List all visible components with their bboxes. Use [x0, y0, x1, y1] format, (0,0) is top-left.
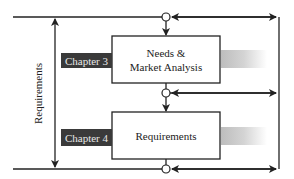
side-requirements-label: Requirements [32, 59, 45, 129]
stage-2-title: Requirements [112, 112, 220, 159]
stage-2-title-line1: Requirements [135, 129, 196, 143]
junction-mid [162, 89, 170, 97]
stage-2-fade-bar [221, 127, 267, 145]
stage-1-title-line1: Needs & [147, 46, 186, 60]
stage-1-title: Needs & Market Analysis [112, 36, 220, 83]
junction-top [162, 13, 170, 21]
stage-1-title-line2: Market Analysis [130, 60, 202, 74]
junction-bottom [162, 165, 170, 173]
stage-1-fade-bar [221, 50, 267, 68]
chapter-4-label: Chapter 4 [61, 129, 112, 146]
chapter-3-label: Chapter 3 [61, 53, 112, 68]
